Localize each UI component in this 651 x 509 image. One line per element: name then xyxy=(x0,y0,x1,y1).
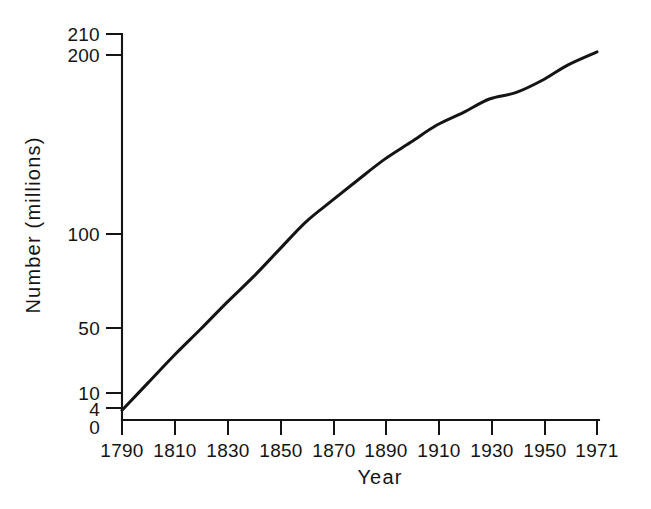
x-tick-label-1890: 1890 xyxy=(364,440,407,461)
x-tick-label-1830: 1830 xyxy=(206,440,249,461)
x-tick-label-1910: 1910 xyxy=(417,440,460,461)
x-tick-label-1870: 1870 xyxy=(312,440,355,461)
y-tick-label-100: 100 xyxy=(67,224,100,245)
x-tick-label-1930: 1930 xyxy=(470,440,513,461)
x-axis-ticks xyxy=(122,420,597,435)
x-tick-label-1810: 1810 xyxy=(153,440,196,461)
x-tick-label-1850: 1850 xyxy=(259,440,302,461)
y-tick-label-0: 0 xyxy=(89,417,100,438)
x-axis-title: Year xyxy=(357,466,402,488)
x-tick-label-1950: 1950 xyxy=(523,440,566,461)
y-axis-ticks xyxy=(106,34,122,408)
y-tick-label-210: 210 xyxy=(67,24,100,45)
y-tick-label-50: 50 xyxy=(78,318,100,339)
population-growth-chart: 210 200 100 50 10 4 0 1790 1810 1830 185… xyxy=(0,0,651,509)
x-tick-label-1971: 1971 xyxy=(575,440,618,461)
y-tick-label-200: 200 xyxy=(67,45,100,66)
population-curve xyxy=(122,52,597,410)
x-tick-label-1790: 1790 xyxy=(100,440,143,461)
y-axis-title: Number (millions) xyxy=(22,136,44,313)
chart-figure: 210 200 100 50 10 4 0 1790 1810 1830 185… xyxy=(0,0,651,509)
